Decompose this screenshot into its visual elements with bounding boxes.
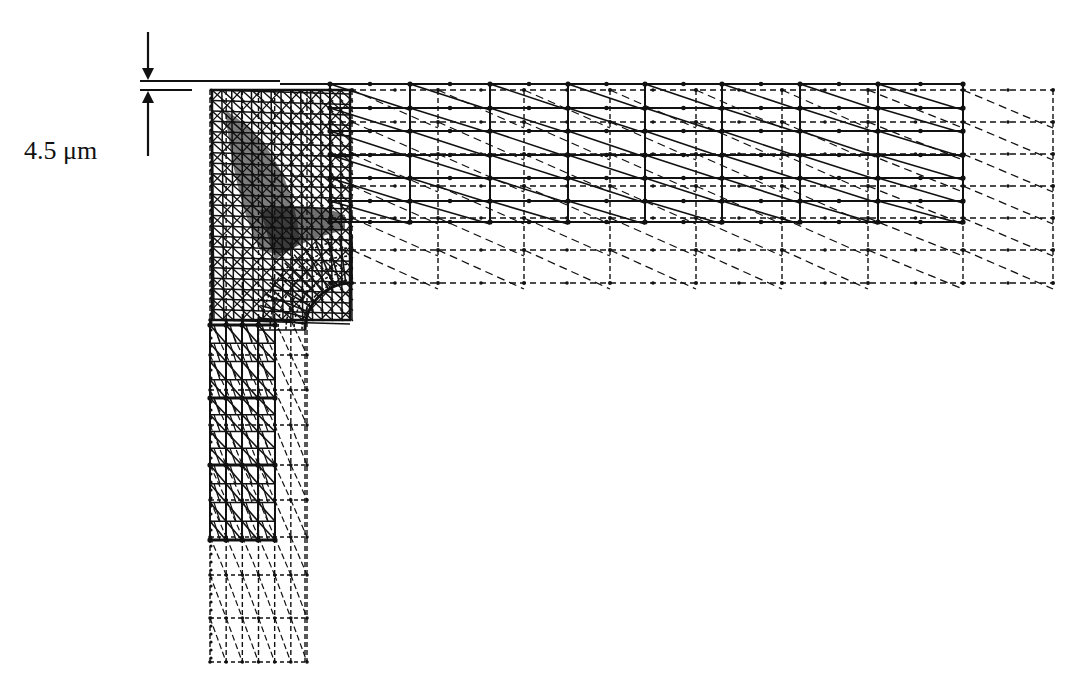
undeformed-mesh [208, 88, 1055, 664]
deformed-mesh [207, 81, 965, 659]
arrow-up-icon [142, 91, 154, 103]
dense-corner-mesh [209, 88, 353, 659]
fem-mesh-diagram [0, 0, 1077, 680]
arrow-down-icon [142, 68, 154, 80]
dimension-label: 4.5 μm [24, 136, 97, 166]
